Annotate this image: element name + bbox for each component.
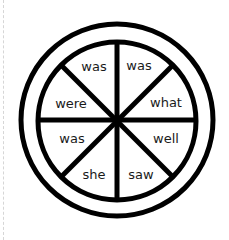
- segment-word-upper-right: what: [150, 95, 182, 110]
- segment-word-bottom-right: saw: [128, 167, 154, 182]
- segment-word-upper-left: were: [55, 96, 87, 111]
- segment-word-lower-right: well: [153, 131, 179, 146]
- segment-word-bottom-left: she: [82, 167, 105, 182]
- segment-word-lower-left: was: [59, 131, 85, 146]
- word-wheel: was was what well saw she was were: [0, 0, 229, 240]
- word-wheel-card: was was what well saw she was were: [0, 0, 229, 240]
- hub: [113, 116, 121, 124]
- segment-word-top-left: was: [81, 59, 107, 74]
- segment-word-top-right: was: [126, 58, 152, 73]
